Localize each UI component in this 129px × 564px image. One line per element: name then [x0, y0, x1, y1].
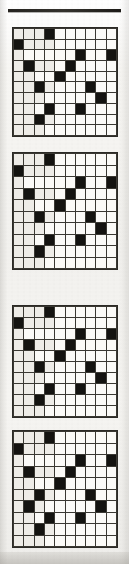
grid-cell-empty[interactable] [76, 373, 85, 383]
grid-cell-filled[interactable] [35, 115, 44, 125]
grid-cell-empty[interactable] [107, 29, 116, 39]
grid-cell-empty[interactable] [24, 373, 33, 383]
grid-cell-empty[interactable] [76, 200, 85, 211]
grid-cell-empty[interactable] [55, 490, 64, 501]
grid-cell-empty[interactable] [107, 536, 116, 547]
grid-cell-empty[interactable] [55, 318, 64, 328]
grid-cell-empty[interactable] [45, 455, 54, 466]
grid-cell-empty[interactable] [35, 72, 44, 82]
grid-cell-empty[interactable] [107, 467, 116, 478]
grid-cell-empty[interactable] [96, 61, 105, 71]
grid-cell-empty[interactable] [24, 362, 33, 372]
grid-cell-empty[interactable] [76, 307, 85, 317]
grid-cell-empty[interactable] [86, 93, 95, 103]
grid-cell-empty[interactable] [24, 72, 33, 82]
grid-cell-empty[interactable] [45, 93, 54, 103]
grid-cell-empty[interactable] [55, 50, 64, 60]
grid-cell-empty[interactable] [76, 246, 85, 257]
grid-cell-filled[interactable] [76, 235, 85, 246]
grid-cell-empty[interactable] [76, 318, 85, 328]
grid-cell-empty[interactable] [96, 212, 105, 223]
grid-cell-empty[interactable] [66, 50, 75, 60]
grid-cell-empty[interactable] [96, 258, 105, 269]
grid-cell-empty[interactable] [66, 258, 75, 269]
grid-cell-empty[interactable] [66, 501, 75, 512]
grid-cell-empty[interactable] [76, 115, 85, 125]
grid-cell-empty[interactable] [76, 166, 85, 177]
grid-cell-empty[interactable] [24, 166, 33, 177]
grid-cell-empty[interactable] [35, 467, 44, 478]
grid-cell-empty[interactable] [86, 373, 95, 383]
grid-cell-empty[interactable] [55, 536, 64, 547]
grid-cell-empty[interactable] [35, 50, 44, 60]
grid-cell-empty[interactable] [45, 223, 54, 234]
grid-cell-empty[interactable] [107, 478, 116, 489]
grid-cell-empty[interactable] [35, 318, 44, 328]
grid-cell-empty[interactable] [14, 29, 23, 39]
grid-cell-empty[interactable] [55, 513, 64, 524]
grid-cell-empty[interactable] [86, 189, 95, 200]
grid-cell-empty[interactable] [45, 258, 54, 269]
grid-cell-empty[interactable] [107, 444, 116, 455]
grid-cell-empty[interactable] [96, 177, 105, 188]
grid-cell-empty[interactable] [76, 351, 85, 361]
grid-cell-empty[interactable] [76, 125, 85, 135]
grid-cell-empty[interactable] [35, 384, 44, 394]
grid-cell-empty[interactable] [55, 432, 64, 443]
grid-cell-empty[interactable] [86, 104, 95, 114]
grid-cell-empty[interactable] [24, 524, 33, 535]
grid-cell-filled[interactable] [76, 50, 85, 60]
grid-cell-empty[interactable] [55, 395, 64, 405]
grid-cell-empty[interactable] [14, 384, 23, 394]
grid-cell-empty[interactable] [55, 104, 64, 114]
grid-cell-empty[interactable] [96, 246, 105, 257]
grid-cell-empty[interactable] [76, 490, 85, 501]
grid-cell-empty[interactable] [66, 235, 75, 246]
grid-cell-empty[interactable] [86, 524, 95, 535]
grid-cell-empty[interactable] [14, 115, 23, 125]
grid-cell-filled[interactable] [35, 212, 44, 223]
grid-cell-empty[interactable] [14, 246, 23, 257]
grid-cell-empty[interactable] [55, 524, 64, 535]
grid-cell-empty[interactable] [96, 490, 105, 501]
grid-cell-empty[interactable] [55, 212, 64, 223]
grid-cell-empty[interactable] [66, 362, 75, 372]
grid-cell-empty[interactable] [107, 373, 116, 383]
grid-cell-empty[interactable] [45, 490, 54, 501]
grid-cell-empty[interactable] [35, 177, 44, 188]
grid-cell-empty[interactable] [96, 29, 105, 39]
grid-cell-empty[interactable] [66, 490, 75, 501]
grid-cell-filled[interactable] [14, 444, 23, 455]
grid-cell-empty[interactable] [96, 50, 105, 60]
grid-cell-empty[interactable] [45, 467, 54, 478]
grid-cell-empty[interactable] [14, 200, 23, 211]
grid-cell-empty[interactable] [55, 384, 64, 394]
grid-cell-empty[interactable] [96, 40, 105, 50]
grid-cell-empty[interactable] [76, 524, 85, 535]
grid-cell-empty[interactable] [76, 467, 85, 478]
grid-cell-empty[interactable] [107, 200, 116, 211]
grid-cell-filled[interactable] [45, 384, 54, 394]
grid-cell-empty[interactable] [24, 406, 33, 416]
grid-cell-empty[interactable] [24, 258, 33, 269]
grid-cell-empty[interactable] [86, 166, 95, 177]
grid-cell-empty[interactable] [107, 395, 116, 405]
grid-cell-empty[interactable] [96, 467, 105, 478]
grid-cell-empty[interactable] [107, 258, 116, 269]
grid-cell-empty[interactable] [66, 384, 75, 394]
grid-cell-empty[interactable] [35, 536, 44, 547]
grid-cell-empty[interactable] [96, 395, 105, 405]
grid-cell-empty[interactable] [24, 104, 33, 114]
grid-cell-empty[interactable] [96, 406, 105, 416]
grid-cell-empty[interactable] [45, 200, 54, 211]
grid-cell-empty[interactable] [45, 125, 54, 135]
grid-cell-empty[interactable] [107, 40, 116, 50]
grid-cell-empty[interactable] [66, 177, 75, 188]
grid-cell-empty[interactable] [107, 362, 116, 372]
grid-cell-filled[interactable] [35, 82, 44, 92]
grid-cell-empty[interactable] [24, 82, 33, 92]
grid-cell-filled[interactable] [14, 166, 23, 177]
grid-cell-empty[interactable] [66, 82, 75, 92]
grid-cell-empty[interactable] [24, 490, 33, 501]
grid-cell-empty[interactable] [107, 154, 116, 165]
